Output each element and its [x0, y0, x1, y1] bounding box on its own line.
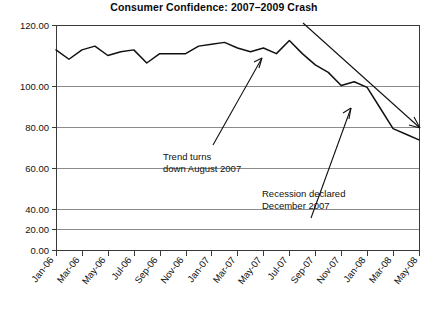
annotation-arrowhead-2 — [343, 108, 351, 119]
x-tick-label-0: Jan-06 — [29, 254, 56, 284]
x-tick-label-2: May-06 — [79, 254, 107, 286]
chart-plot: 120.00 100.00 80.00 60.00 40.00 20.00 0.… — [0, 0, 428, 310]
gridlines — [56, 26, 419, 230]
chart-container: Consumer Confidence: 2007–2009 Crash — [0, 0, 428, 310]
y-tick-label-20: 20.00 — [25, 224, 49, 235]
x-tick-label-10: Sep-07 — [288, 254, 316, 285]
y-tick-label-100: 100.00 — [20, 81, 49, 92]
downward-trend-arrow — [303, 23, 420, 128]
data-series-line — [56, 41, 419, 140]
y-axis-labels: 120.00 100.00 80.00 60.00 40.00 20.00 0.… — [20, 20, 49, 256]
y-tick-label-120: 120.00 — [20, 20, 49, 31]
trend-arrow-shaft — [303, 23, 420, 128]
x-axis-labels: Jan-06 Mar-06 May-06 Jul-06 Sep-06 Nov-0… — [29, 254, 420, 286]
x-tick-label-13: Mar-08 — [366, 254, 393, 284]
y-tick-label-80: 80.00 — [25, 122, 49, 133]
x-tick-label-6: Jan-07 — [185, 254, 212, 284]
y-tick-label-60: 60.00 — [25, 163, 49, 174]
x-tick-label-9: Jul-07 — [265, 254, 290, 281]
axis-frame — [56, 25, 420, 251]
x-tick-label-8: May-07 — [235, 254, 263, 286]
y-tick-label-40: 40.00 — [25, 204, 49, 215]
x-tick-label-7: Mar-07 — [210, 254, 237, 284]
x-tick-label-3: Jul-06 — [109, 254, 134, 281]
annotation-text-1-line2: down August 2007 — [163, 163, 241, 174]
annotation-leader-line-1 — [213, 58, 262, 145]
x-tick-label-14: May-08 — [391, 254, 419, 286]
y-tickmarks — [52, 26, 56, 251]
x-tick-label-4: Sep-06 — [132, 254, 160, 285]
x-tick-label-5: Nov-06 — [158, 254, 186, 285]
annotation-text-1-line1: Trend turns — [163, 151, 211, 162]
x-tick-label-11: Nov-07 — [314, 254, 342, 285]
annotation-text-2-line2: December 2007 — [262, 200, 330, 211]
annotation-recession-declared: Recession declared December 2007 — [262, 108, 351, 218]
annotation-trend-turns: Trend turns down August 2007 — [163, 58, 262, 174]
x-tick-label-1: Mar-06 — [54, 254, 81, 284]
x-tick-label-12: Jan-08 — [341, 254, 368, 284]
annotation-text-2-line1: Recession declared — [262, 188, 345, 199]
